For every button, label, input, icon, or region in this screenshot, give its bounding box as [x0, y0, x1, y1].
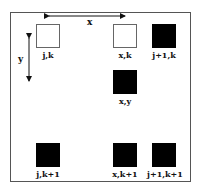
cell-label-x-y: x,y: [119, 96, 131, 106]
cell-j-k: [36, 24, 60, 48]
cell-label-j-k: j,k: [42, 50, 53, 60]
cell-x-k1: [113, 143, 137, 167]
y-axis-label: y: [18, 54, 23, 64]
x-axis-label: x: [87, 17, 92, 27]
cell-label-j-k1: j,k+1: [36, 169, 60, 179]
cell-j-k1: [36, 143, 60, 167]
cell-x-y: [113, 70, 137, 94]
cell-label-x-k1: x,k+1: [112, 169, 137, 179]
cell-label-j1-k: j+1,k: [152, 50, 176, 60]
cell-j1-k1: [152, 143, 176, 167]
cell-label-j1-k1: j+1,k+1: [147, 169, 183, 179]
cell-label-x-k: x,k: [118, 50, 131, 60]
cell-j1-k: [152, 24, 176, 48]
cell-x-k: [113, 24, 137, 48]
